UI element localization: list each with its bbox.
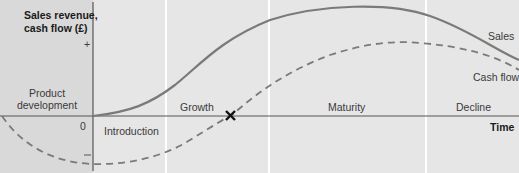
x-axis-title: Time <box>490 121 514 133</box>
stage-label-introduction: Introduction <box>104 125 159 137</box>
stage-label-maturity: Maturity <box>328 101 365 113</box>
stage-label-decline: Decline <box>456 101 491 113</box>
stage-divider-maturity-decline <box>425 0 427 173</box>
stage-label-product-development-line1: Product <box>12 87 82 99</box>
stage-label-growth: Growth <box>180 101 214 113</box>
y-axis-title-line2: cash flow (£) <box>24 22 88 34</box>
y-tick-plus: + <box>84 38 90 50</box>
product-life-cycle-diagram: Sales revenue, cash flow (£) + 0 Product… <box>0 0 519 173</box>
stage-divider-introduction-growth <box>165 0 167 173</box>
legend-cash-flow: Cash flow <box>473 71 519 83</box>
stage-label-product-development-line2: development <box>8 99 86 111</box>
y-axis-title-line1: Sales revenue, <box>24 9 98 21</box>
y-tick-zero: 0 <box>80 120 86 132</box>
legend-sales: Sales <box>488 30 514 42</box>
